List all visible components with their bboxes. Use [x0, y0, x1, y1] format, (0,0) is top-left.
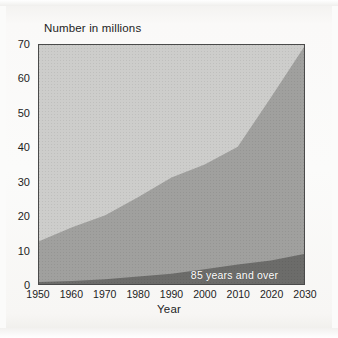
x-tick-label-1970: 1970	[93, 288, 116, 300]
series-annotation-85-years-and-over: 85 years and over	[191, 269, 278, 281]
area-chart: Number in millions 010203040506070 19501…	[0, 0, 338, 338]
y-tick-label-30: 30	[0, 176, 30, 188]
x-tick-label-1990: 1990	[160, 288, 183, 300]
x-tick-label-2010: 2010	[227, 288, 250, 300]
x-tick-label-2030: 2030	[293, 288, 316, 300]
plot-area	[38, 44, 305, 285]
plot-svg	[39, 45, 304, 284]
y-tick-label-10: 10	[0, 245, 30, 257]
x-tick-label-1980: 1980	[126, 288, 149, 300]
y-axis-title: Number in millions	[44, 22, 141, 34]
y-tick-label-50: 50	[0, 107, 30, 119]
y-tick-label-70: 70	[0, 38, 30, 50]
y-tick-label-60: 60	[0, 72, 30, 84]
x-tick-label-2000: 2000	[193, 288, 216, 300]
x-tick-label-1950: 1950	[26, 288, 49, 300]
chart-page: Number in millions 010203040506070 19501…	[0, 0, 338, 338]
x-tick-label-1960: 1960	[60, 288, 83, 300]
y-tick-label-40: 40	[0, 141, 30, 153]
y-tick-label-20: 20	[0, 210, 30, 222]
x-axis-title: Year	[0, 303, 338, 315]
x-tick-label-2020: 2020	[260, 288, 283, 300]
